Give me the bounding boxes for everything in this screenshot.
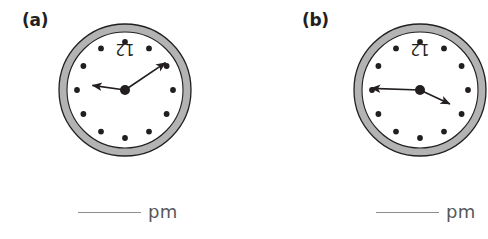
clock-center-pin-b: [415, 85, 425, 95]
hour-dot-3: [170, 87, 176, 93]
hour-dot-2: [459, 63, 465, 69]
hour-dot-5: [146, 129, 152, 135]
hour-dot-8: [81, 111, 87, 117]
hour-dot-5: [441, 129, 447, 135]
pm-label-a: pm: [148, 203, 177, 221]
hour-dot-7: [98, 129, 104, 135]
hour-dot-6: [417, 135, 423, 141]
hour-dot-4: [459, 111, 465, 117]
answer-blank-b[interactable]: [376, 212, 439, 213]
hour-dot-1: [146, 46, 152, 52]
clock-numeral-12-b: 12: [410, 40, 429, 58]
problem-b: (b) 12: [244, 0, 488, 239]
problem-a: (a): [0, 0, 244, 239]
clock-numeral-12-a: 12: [115, 40, 134, 58]
answer-blank-a[interactable]: [78, 212, 141, 213]
hour-dot-3: [465, 87, 471, 93]
clock-graphic-a: 12: [57, 22, 193, 158]
hour-dot-6: [122, 135, 128, 141]
hour-dot-8: [376, 111, 382, 117]
hour-dot-7: [393, 129, 399, 135]
answer-line-a: pm: [78, 203, 177, 221]
clock-face-b: 12: [352, 22, 488, 158]
part-label-b: (b): [302, 10, 329, 30]
clock-face-a: 12: [57, 22, 193, 158]
clock-graphic-b: 12: [352, 22, 488, 158]
part-label-a: (a): [22, 10, 48, 30]
hour-dot-9: [74, 87, 80, 93]
clock-center-pin-a: [120, 85, 130, 95]
hour-dot-1: [441, 46, 447, 52]
hour-dot-11: [393, 46, 399, 52]
answer-line-b: pm: [376, 203, 475, 221]
pm-label-b: pm: [446, 203, 475, 221]
hour-dot-10: [81, 63, 87, 69]
hour-dot-11: [98, 46, 104, 52]
hour-dot-10: [376, 63, 382, 69]
worksheet-canvas: (a): [0, 0, 488, 239]
hour-dot-4: [164, 111, 170, 117]
